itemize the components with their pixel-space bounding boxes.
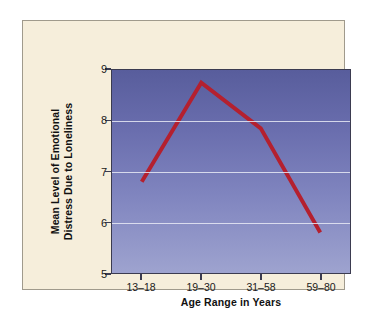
y-tick-label-7: 7 (93, 166, 107, 177)
x-tick-label-0: 13–18 (111, 281, 171, 293)
x-axis-tick-marks (111, 274, 351, 281)
gridline-y-6 (112, 223, 350, 224)
x-tick-mark-3 (320, 274, 321, 280)
x-tick-mark-1 (200, 274, 201, 280)
line-series-distress (142, 83, 321, 233)
x-tick-label-3: 59–80 (291, 281, 351, 293)
chart-panel: 56789 13–1819–3031–5859–80 Age Range in … (22, 20, 345, 290)
y-axis-title: Mean Level of Emotional Distress Due to … (45, 69, 79, 274)
x-tick-mark-2 (260, 274, 261, 280)
x-axis-tick-labels: 13–1819–3031–5859–80 (111, 281, 351, 295)
y-tick-label-8: 8 (93, 115, 107, 126)
y-axis-title-line1: Mean Level of Emotional (49, 109, 62, 234)
x-axis-title: Age Range in Years (111, 296, 351, 308)
gridline-y-8 (112, 121, 350, 122)
y-axis-title-line2: Distress Due to Loneliness (62, 103, 75, 240)
x-tick-label-1: 19–30 (171, 281, 231, 293)
y-tick-label-6: 6 (93, 217, 107, 228)
gridline-y-7 (112, 172, 350, 173)
y-tick-label-9: 9 (93, 64, 107, 75)
x-tick-mark-0 (140, 274, 141, 280)
chart-figure: 56789 13–1819–3031–5859–80 Age Range in … (0, 0, 368, 311)
y-axis-tick-labels: 56789 (91, 69, 107, 274)
x-tick-label-2: 31–58 (231, 281, 291, 293)
y-tick-label-5: 5 (93, 269, 107, 280)
plot-area (111, 69, 351, 274)
